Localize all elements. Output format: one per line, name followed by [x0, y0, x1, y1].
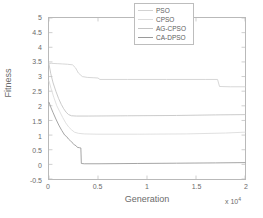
y-tick-label: 4	[38, 43, 45, 50]
x-axis-multiplier-exponent: 4	[238, 196, 241, 202]
y-tick-label: 1	[38, 132, 45, 139]
legend-item-pso[interactable]: PSO	[138, 6, 190, 15]
legend-item-ca-dpso[interactable]: CA-DPSO	[138, 33, 190, 42]
series-line-pso	[49, 63, 245, 86]
x-tick-label: 1.5	[192, 183, 202, 190]
y-tick-label: 3.5	[32, 58, 45, 65]
series-line-ag-cpso	[49, 64, 245, 116]
legend-label: CPSO	[156, 16, 174, 23]
y-tick-label: -0.5	[30, 177, 45, 184]
x-axis-multiplier-base: x 10	[225, 198, 238, 205]
legend-swatch	[138, 37, 153, 38]
x-axis-ticks: 00.511.52	[48, 183, 246, 193]
figure: -0.500.511.522.533.544.55 Fitness 00.511…	[0, 0, 263, 218]
legend: PSOCPSOAG-CPSOCA-DPSO	[134, 3, 194, 45]
series-line-cpso	[49, 81, 245, 134]
y-tick-label: 0	[38, 162, 45, 169]
y-tick-label: 3	[38, 73, 45, 80]
y-tick-label: 5	[38, 14, 45, 21]
y-axis-label: Fitness	[3, 53, 13, 113]
legend-swatch	[138, 28, 153, 29]
y-tick-label: 1.5	[32, 117, 45, 124]
y-tick-label: 4.5	[32, 28, 45, 35]
legend-label: AG-CPSO	[156, 25, 186, 32]
legend-item-cpso[interactable]: CPSO	[138, 15, 190, 24]
x-tick-label: 0	[46, 183, 50, 190]
y-tick-label: 0.5	[32, 147, 45, 154]
y-tick-label: 2	[38, 102, 45, 109]
x-axis-multiplier: x 104	[225, 196, 241, 205]
legend-swatch	[138, 19, 153, 20]
legend-label: PSO	[156, 7, 170, 14]
x-tick-label: 2	[244, 183, 248, 190]
legend-label: CA-DPSO	[156, 34, 186, 41]
legend-item-ag-cpso[interactable]: AG-CPSO	[138, 24, 190, 33]
x-tick-label: 0.5	[93, 183, 103, 190]
x-tick-label: 1	[145, 183, 149, 190]
x-axis-label: Generation	[48, 194, 246, 204]
legend-swatch	[138, 10, 153, 11]
y-tick-label: 2.5	[32, 88, 45, 95]
